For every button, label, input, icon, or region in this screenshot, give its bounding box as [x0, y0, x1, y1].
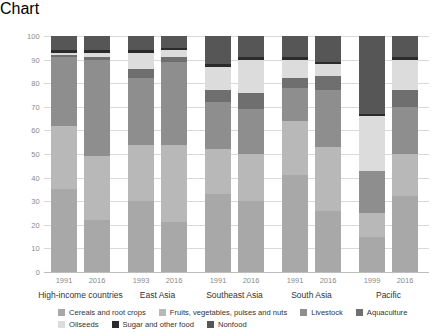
bar-segment[interactable]: [51, 189, 77, 272]
bar-segment[interactable]: [359, 36, 385, 114]
bar-segment[interactable]: [51, 53, 77, 55]
bar-segment[interactable]: [282, 57, 308, 59]
y-axis-tick-label: 50: [14, 150, 40, 159]
bar-segment[interactable]: [205, 102, 231, 149]
bar-segment[interactable]: [315, 147, 341, 211]
bar-segment[interactable]: [238, 60, 264, 93]
bar-segment[interactable]: [161, 48, 187, 50]
bar-segment[interactable]: [392, 196, 418, 272]
bar-stack[interactable]: [392, 36, 418, 272]
bar-segment[interactable]: [84, 60, 110, 157]
bar-segment[interactable]: [128, 69, 154, 78]
legend-label: Oilseeds: [69, 320, 99, 329]
bar-segment[interactable]: [392, 60, 418, 91]
bar-segment[interactable]: [282, 78, 308, 87]
bar-segment[interactable]: [161, 145, 187, 223]
bar-segment[interactable]: [84, 156, 110, 220]
bar-segment[interactable]: [282, 175, 308, 272]
bar-segment[interactable]: [205, 64, 231, 66]
bar-segment[interactable]: [161, 222, 187, 272]
bar-stack[interactable]: [282, 36, 308, 272]
bar-stack[interactable]: [51, 36, 77, 272]
bar-segment[interactable]: [128, 78, 154, 144]
legend-item[interactable]: Sugar and other food: [112, 320, 194, 329]
bar-segment[interactable]: [282, 121, 308, 175]
bar-segment[interactable]: [205, 149, 231, 194]
bar-segment[interactable]: [84, 57, 110, 59]
bar-segment[interactable]: [392, 36, 418, 57]
bar-segment[interactable]: [51, 57, 77, 125]
bar-segment[interactable]: [128, 53, 154, 70]
bar-segment[interactable]: [282, 36, 308, 57]
bar-segment[interactable]: [282, 88, 308, 121]
bar-segment[interactable]: [359, 237, 385, 272]
x-axis-year-label: 2016: [305, 276, 351, 285]
bar-stack[interactable]: [128, 36, 154, 272]
bar-segment[interactable]: [392, 107, 418, 154]
bar-segment[interactable]: [161, 62, 187, 145]
bar-segment[interactable]: [315, 76, 341, 90]
bar-segment[interactable]: [128, 36, 154, 50]
bar-stack[interactable]: [238, 36, 264, 272]
bar-segment[interactable]: [128, 50, 154, 52]
y-axis-tick-label: 80: [14, 79, 40, 88]
legend-item[interactable]: Cereals and root crops: [58, 308, 146, 317]
plot-area: [44, 36, 429, 272]
bar-segment[interactable]: [161, 36, 187, 48]
bar-segment[interactable]: [205, 67, 231, 91]
bar-segment[interactable]: [282, 60, 308, 79]
bar-stack[interactable]: [359, 36, 385, 272]
legend-label: Sugar and other food: [123, 320, 194, 329]
bar-segment[interactable]: [51, 126, 77, 190]
bar-segment[interactable]: [51, 55, 77, 57]
bar-segment[interactable]: [205, 90, 231, 102]
bar-segment[interactable]: [161, 57, 187, 62]
bar-segment[interactable]: [84, 50, 110, 52]
bar-segment[interactable]: [84, 220, 110, 272]
bar-segment[interactable]: [315, 90, 341, 147]
bar-segment[interactable]: [84, 53, 110, 58]
bar-segment[interactable]: [238, 109, 264, 154]
legend-swatch-icon: [300, 309, 307, 316]
bar-segment[interactable]: [359, 213, 385, 237]
bar-segment[interactable]: [238, 93, 264, 110]
bar-segment[interactable]: [128, 201, 154, 272]
bar-stack[interactable]: [315, 36, 341, 272]
bar-segment[interactable]: [238, 57, 264, 59]
bar-segment[interactable]: [238, 36, 264, 57]
bar-segment[interactable]: [205, 36, 231, 64]
y-axis-tick-label: 60: [14, 126, 40, 135]
y-axis-tick-label: 30: [14, 197, 40, 206]
bar-segment[interactable]: [359, 114, 385, 116]
y-axis-tick-label: 90: [14, 55, 40, 64]
bar-stack[interactable]: [84, 36, 110, 272]
bar-stack[interactable]: [205, 36, 231, 272]
bar-segment[interactable]: [392, 90, 418, 107]
legend-item[interactable]: Aquaculture: [356, 308, 408, 317]
bar-segment[interactable]: [315, 211, 341, 272]
y-axis-tick-label: 0: [14, 268, 40, 277]
bar-segment[interactable]: [161, 50, 187, 57]
legend-item[interactable]: Livestock: [300, 308, 343, 317]
bar-segment[interactable]: [392, 57, 418, 59]
bar-segment[interactable]: [238, 201, 264, 272]
bar-segment[interactable]: [315, 62, 341, 64]
bar-segment[interactable]: [359, 171, 385, 213]
bar-segment[interactable]: [51, 36, 77, 50]
bar-segment[interactable]: [51, 50, 77, 52]
stacked-bar-chart: Percent 0102030405060708090100 19912016H…: [0, 18, 439, 333]
legend-item[interactable]: Nonfood: [207, 320, 247, 329]
chart-legend: Cereals and root cropsFruits, vegetables…: [58, 308, 439, 332]
legend-item[interactable]: Oilseeds: [58, 320, 99, 329]
bar-segment[interactable]: [205, 194, 231, 272]
bar-segment[interactable]: [315, 36, 341, 62]
bar-segment[interactable]: [84, 36, 110, 50]
bar-segment[interactable]: [392, 154, 418, 196]
x-axis-group-label: Pacific: [329, 290, 439, 300]
bar-segment[interactable]: [359, 116, 385, 170]
legend-item[interactable]: Fruits, vegetables, pulses and nuts: [159, 308, 287, 317]
bar-segment[interactable]: [128, 145, 154, 202]
bar-stack[interactable]: [161, 36, 187, 272]
bar-segment[interactable]: [238, 154, 264, 201]
bar-segment[interactable]: [315, 64, 341, 76]
